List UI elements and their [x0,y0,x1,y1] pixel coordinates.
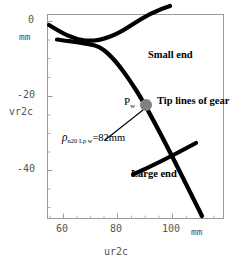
y-tick-label-minus40: -40 [17,163,35,174]
annotation-point-pw: Pw [124,95,135,109]
x-axis-title: ur2c [104,246,128,257]
annotation-tip-lines: Tip lines of gear [157,95,229,106]
y-tick-label-0: 0 [28,14,34,25]
annotation-rho-formula: ρn20 Lp w=82mm [62,131,125,144]
point-p-subscript: w [130,102,135,109]
rho-value: =82mm [92,132,125,143]
y-axis-unit-label: mm [19,31,30,42]
annotation-large-end: Large end [131,168,177,179]
x-axis-unit-label: mm [191,226,202,237]
x-tick-label-100: 100 [162,223,180,234]
plot-figure: 0 -20 -40 mm vr2c 60 80 100 mm ur2c Smal… [0,0,246,268]
y-axis-title: vr2c [9,106,33,117]
y-tick-label-minus20: -20 [17,89,35,100]
rho-subscript: n20 Lp w [68,137,93,144]
point-pw-marker [140,99,152,111]
x-tick-label-80: 80 [110,223,122,234]
x-tick-label-60: 60 [56,223,68,234]
annotation-small-end: Small end [148,49,193,60]
